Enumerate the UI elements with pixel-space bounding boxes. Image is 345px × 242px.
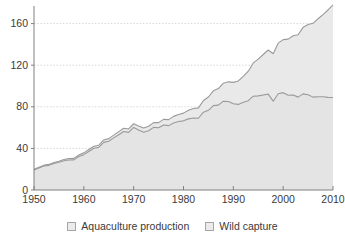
legend-label-aquaculture: Aquaculture production xyxy=(81,220,189,232)
legend-swatch-icon xyxy=(205,222,214,231)
fish-production-area-chart: 040801201601950196019701980199020002010 … xyxy=(0,0,345,242)
y-tick-label: 80 xyxy=(16,100,28,112)
x-tick-label: 1950 xyxy=(22,193,46,205)
y-tick-label: 40 xyxy=(16,142,28,154)
area-series-group xyxy=(34,5,333,190)
legend-item-aquaculture[interactable]: Aquaculture production xyxy=(67,220,189,232)
chart-legend: Aquaculture production Wild capture xyxy=(0,215,345,237)
y-tick-label: 160 xyxy=(10,17,28,29)
y-tick-label: 120 xyxy=(10,59,28,71)
x-tick-label: 1970 xyxy=(122,193,146,205)
area-wild-capture xyxy=(34,93,333,190)
legend-swatch-icon xyxy=(67,222,76,231)
legend-item-wild-capture[interactable]: Wild capture xyxy=(205,220,277,232)
x-tick-label: 1980 xyxy=(172,193,196,205)
x-tick-label: 2000 xyxy=(271,193,295,205)
legend-label-wild-capture: Wild capture xyxy=(219,220,277,232)
x-tick-label: 1960 xyxy=(72,193,96,205)
x-tick-label: 1990 xyxy=(222,193,246,205)
chart-plot-area: 040801201601950196019701980199020002010 xyxy=(0,0,345,208)
x-tick-label: 2010 xyxy=(321,193,345,205)
